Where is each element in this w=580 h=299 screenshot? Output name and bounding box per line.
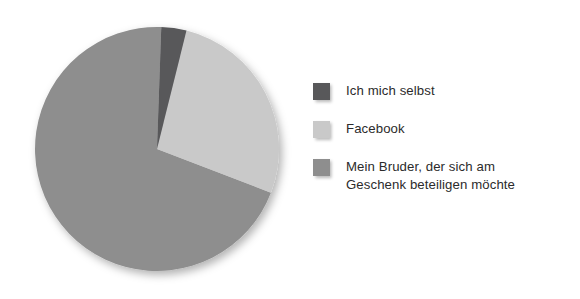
legend-label-facebook: Facebook [346, 120, 405, 138]
pie-svg [35, 27, 279, 271]
legend-swatch-icon-facebook [313, 121, 330, 138]
legend-item-ich-mich-selbst: Ich mich selbst [313, 82, 571, 100]
chart-legend: Ich mich selbst Facebook Mein Bruder, de… [313, 82, 571, 193]
pie-chart-graphic [35, 27, 279, 271]
legend-label-mein-bruder: Mein Bruder, der sich am Geschenk beteil… [346, 158, 515, 193]
pie-chart-figure: Ich mich selbst Facebook Mein Bruder, de… [0, 0, 580, 299]
legend-item-mein-bruder: Mein Bruder, der sich am Geschenk beteil… [313, 158, 571, 193]
legend-label-ich-mich-selbst: Ich mich selbst [346, 82, 435, 100]
legend-swatch-icon-mein-bruder [313, 159, 330, 176]
legend-item-facebook: Facebook [313, 120, 571, 138]
legend-swatch-icon-ich-mich-selbst [313, 83, 330, 100]
pie-slice-group [35, 27, 279, 271]
